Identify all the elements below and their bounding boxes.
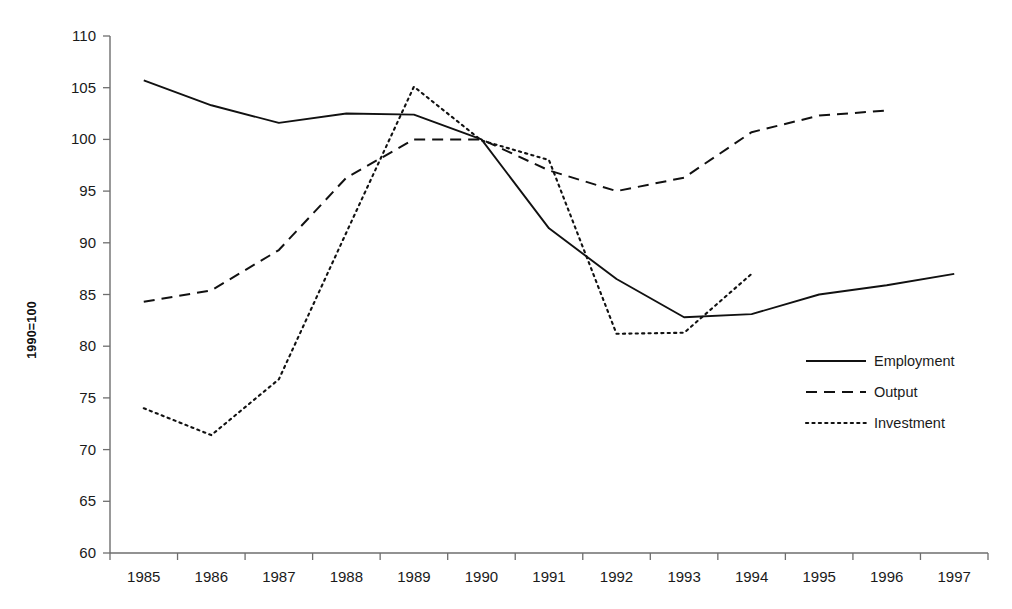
y-tick-label: 95 (79, 182, 96, 199)
y-tick-label: 70 (79, 441, 96, 458)
x-tick-label: 1985 (127, 568, 160, 585)
y-tick-label: 90 (79, 234, 96, 251)
x-tick-label: 1993 (667, 568, 700, 585)
y-tick-label: 60 (79, 544, 96, 561)
series-line-investment (144, 87, 752, 435)
x-tick-label: 1986 (195, 568, 228, 585)
x-tick-label: 1996 (870, 568, 903, 585)
y-tick-label: 75 (79, 389, 96, 406)
x-tick-label: 1997 (938, 568, 971, 585)
x-tick-label: 1991 (532, 568, 565, 585)
legend-item-output[interactable]: Output (806, 384, 918, 400)
x-tick-label: 1987 (262, 568, 295, 585)
x-axis-ticks (110, 553, 988, 560)
y-tick-label: 80 (79, 337, 96, 354)
y-axis-title: 1990=100 (25, 301, 39, 359)
legend-label: Output (874, 384, 918, 400)
legend-label: Investment (874, 415, 945, 431)
y-axis-ticks (103, 36, 110, 553)
x-tick-label: 1992 (600, 568, 633, 585)
legend-item-employment[interactable]: Employment (806, 353, 955, 369)
y-tick-label: 65 (79, 492, 96, 509)
y-axis-tick-labels: 1101051009590858075706560 (71, 27, 96, 561)
series-line-employment (144, 80, 954, 317)
legend-label: Employment (874, 353, 955, 369)
x-tick-label: 1988 (330, 568, 363, 585)
series-lines (144, 80, 954, 435)
chart-canvas: 1101051009590858075706560 19851986198719… (0, 0, 1012, 609)
legend: EmploymentOutputInvestment (806, 353, 955, 431)
y-tick-label: 110 (72, 27, 96, 44)
line-chart: 1101051009590858075706560 19851986198719… (0, 0, 1012, 609)
x-tick-label: 1990 (465, 568, 498, 585)
x-tick-label: 1995 (802, 568, 835, 585)
series-line-output (144, 110, 887, 301)
y-tick-label: 100 (71, 130, 96, 147)
x-axis-tick-labels: 1985198619871988198919901991199219931994… (127, 568, 971, 585)
x-tick-label: 1994 (735, 568, 768, 585)
y-axis-title-text: 1990=100 (25, 301, 39, 359)
y-tick-label: 85 (79, 286, 96, 303)
y-tick-label: 105 (71, 79, 96, 96)
legend-item-investment[interactable]: Investment (806, 415, 945, 431)
x-tick-label: 1989 (397, 568, 430, 585)
